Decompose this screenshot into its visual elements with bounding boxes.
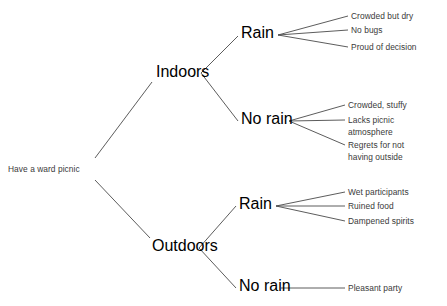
root-branch-group xyxy=(95,82,152,238)
outcome-outdoors-norain-1: Pleasant party xyxy=(348,283,403,293)
chance-node-outdoors-rain-label: Rain xyxy=(239,195,272,212)
outcome-indoors-rain-1: Crowded but dry xyxy=(351,11,414,21)
outcome-indoors-norain-3-line1: Regrets for not xyxy=(348,140,405,150)
outcome-outdoors-rain-1: Wet participants xyxy=(348,187,409,197)
edge-root-to-outdoors xyxy=(95,180,150,238)
edge-outdoors-rain-outcome-1 xyxy=(276,192,345,206)
edge-outdoors-to-norain xyxy=(199,248,236,288)
chance-node-indoors-norain-label: No rain xyxy=(241,110,293,127)
outcome-indoors-norain-3-line2: having outside xyxy=(348,152,403,162)
outcome-indoors-norain-1: Crowded, stuffy xyxy=(348,100,408,110)
edge-indoors-to-norain xyxy=(201,73,238,121)
outdoors-rain-outcome-group xyxy=(276,192,345,221)
outcome-indoors-rain-2: No bugs xyxy=(351,25,383,35)
outcome-outdoors-rain-3: Dampened spirits xyxy=(348,216,414,226)
edge-indoors-norain-outcome-2 xyxy=(289,120,345,121)
chance-node-indoors-rain-label: Rain xyxy=(241,24,274,41)
outcome-indoors-rain-3: Proud of decision xyxy=(351,42,417,52)
chance-node-outdoors-norain-label: No rain xyxy=(239,277,291,294)
edge-indoors-norain-outcome-1 xyxy=(289,105,345,121)
decision-tree-canvas: Have a ward picnic Indoors Outdoors Rain… xyxy=(0,0,447,306)
decision-node-indoors-label: Indoors xyxy=(156,63,209,80)
outcome-indoors-norain-2-line1: Lacks picnic xyxy=(348,115,394,125)
edge-outdoors-rain-outcome-3 xyxy=(276,206,345,221)
outcome-outdoors-rain-2: Ruined food xyxy=(348,201,394,211)
indoors-rain-outcome-group xyxy=(278,16,348,47)
edge-indoors-norain-outcome-3 xyxy=(289,121,345,145)
edge-indoors-rain-outcome-3 xyxy=(278,35,348,47)
edge-root-to-indoors xyxy=(95,82,152,158)
decision-node-outdoors-label: Outdoors xyxy=(152,237,218,254)
root-node-label: Have a ward picnic xyxy=(8,164,80,174)
indoors-norain-outcome-group xyxy=(289,105,345,145)
decision-tree-diagram: Have a ward picnic Indoors Outdoors Rain… xyxy=(0,0,447,306)
outcome-indoors-norain-2-line2: atmosphere xyxy=(348,127,393,137)
